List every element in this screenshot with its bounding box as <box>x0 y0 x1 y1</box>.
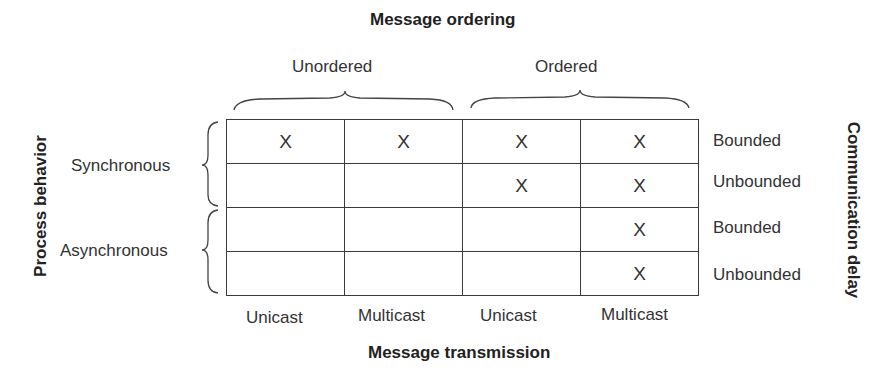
cell <box>345 164 463 208</box>
cell: X <box>227 120 345 164</box>
row-label-bounded-2: Bounded <box>713 218 781 238</box>
col-label-multicast-1: Multicast <box>358 306 425 326</box>
cell <box>463 208 581 252</box>
cell: X <box>581 208 699 252</box>
communication-delay-title: Communication delay <box>843 122 863 299</box>
row-label-bounded-1: Bounded <box>713 131 781 151</box>
table-row: X <box>227 208 699 252</box>
process-behavior-title: Process behavior <box>31 135 51 277</box>
cell <box>463 252 581 296</box>
cell: X <box>581 164 699 208</box>
table-row: X <box>227 252 699 296</box>
brace-synchronous <box>202 122 218 206</box>
row-label-unbounded-2: Unbounded <box>713 265 801 285</box>
cell: X <box>463 164 581 208</box>
cell <box>345 208 463 252</box>
table-row: X X <box>227 164 699 208</box>
cell: X <box>463 120 581 164</box>
brace-ordered <box>471 90 689 108</box>
row-label-unbounded-1: Unbounded <box>713 172 801 192</box>
row-group-synchronous: Synchronous <box>71 156 170 176</box>
cell: X <box>581 252 699 296</box>
cell <box>227 208 345 252</box>
brace-asynchronous <box>202 210 218 293</box>
cell: X <box>345 120 463 164</box>
cell: X <box>581 120 699 164</box>
table-row: X X X X <box>227 120 699 164</box>
cell <box>227 164 345 208</box>
cell <box>345 252 463 296</box>
col-label-unicast-1: Unicast <box>246 308 303 328</box>
col-label-unicast-2: Unicast <box>480 306 537 326</box>
col-label-multicast-2: Multicast <box>601 305 668 325</box>
message-transmission-title: Message transmission <box>368 343 550 363</box>
matrix-table: X X X X X X X X <box>226 119 699 296</box>
row-group-asynchronous: Asynchronous <box>60 241 168 261</box>
cell <box>227 252 345 296</box>
brace-unordered <box>234 91 453 110</box>
